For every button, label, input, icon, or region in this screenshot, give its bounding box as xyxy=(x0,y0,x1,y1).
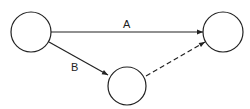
node-left xyxy=(11,12,51,52)
dummy-edge-dashed-arrow xyxy=(146,42,205,76)
edge-b-arrow xyxy=(49,42,108,75)
node-bottom xyxy=(108,67,146,105)
node-right xyxy=(203,12,243,52)
network-diagram: A B xyxy=(0,0,250,109)
edge-b-label: B xyxy=(71,61,78,73)
edge-a-label: A xyxy=(123,18,131,30)
